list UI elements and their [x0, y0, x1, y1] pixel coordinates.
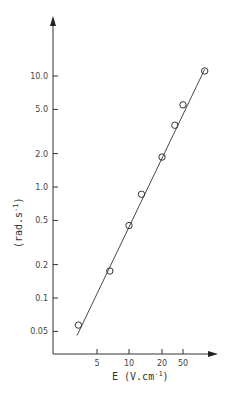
x-tick-label: 10	[124, 359, 134, 368]
x-axis-label: E (V.cm-1)	[112, 370, 169, 382]
data-point	[180, 102, 186, 108]
y-tick-label: 0.5	[35, 216, 48, 225]
y-tick-label: 0.1	[35, 294, 48, 303]
y-tick-label: 2.0	[35, 150, 48, 159]
y-tick-label: 1.0	[35, 183, 48, 192]
chart: 0.050.10.20.51.02.05.010.0 5102050 E (V.…	[0, 0, 227, 399]
x-tick-label: 20	[157, 359, 167, 368]
y-tick-label: 0.05	[30, 327, 48, 336]
data-points	[75, 68, 208, 329]
x-tick-label: 5	[94, 359, 99, 368]
data-point	[75, 322, 81, 328]
y-tick-label: 0.2	[35, 261, 48, 270]
y-axis-arrow-icon	[50, 16, 56, 26]
y-tick-label: 5.0	[35, 105, 48, 114]
x-axis-arrow-icon	[208, 351, 218, 357]
data-point	[138, 191, 144, 197]
data-point	[172, 122, 178, 128]
x-tick-label: 50	[178, 359, 188, 368]
y-tick-label: 10.0	[30, 72, 48, 81]
y-axis-label: (rad.s-1)	[12, 197, 24, 248]
fit-line	[77, 69, 205, 335]
x-ticks: 5102050	[94, 349, 188, 368]
data-point	[201, 68, 207, 74]
y-ticks: 0.050.10.20.51.02.05.010.0	[30, 72, 58, 336]
